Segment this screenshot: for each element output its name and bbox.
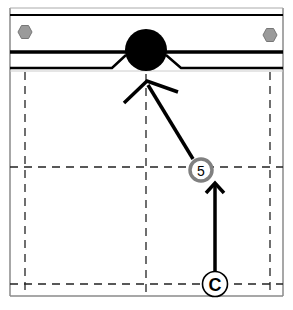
rail-pocket-right-edge [166, 55, 283, 68]
object-ball-5: 5 [190, 159, 212, 181]
cue-ball-c: C [203, 272, 228, 297]
left-bolt-icon [18, 26, 32, 39]
ball-5-label: 5 [197, 163, 205, 179]
rail-pocket-left-edge [10, 55, 126, 68]
pocketed-ball [125, 29, 167, 71]
cue-ball-label: C [209, 275, 222, 295]
diagram-canvas: 5 C [0, 0, 293, 310]
grid-lines [10, 72, 283, 296]
arrow-ball5-to-pocket [148, 85, 193, 159]
right-bolt-icon [263, 29, 277, 42]
